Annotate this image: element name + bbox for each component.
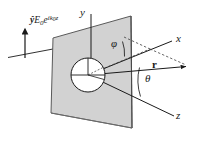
exponent-variable: z [56,14,59,22]
phi-angle-label: φ [111,38,117,49]
exponential-exponent: ik0z [48,14,59,22]
theta-angle-arc [138,68,141,97]
scattering-sphere [71,58,106,92]
z-axis-label: z [176,110,180,121]
spherical-coordinate-diagram: x y z r φ θ ŷE0eik0z [0,0,205,146]
x-axis-label: x [176,33,181,44]
theta-angle-label: θ [145,73,150,84]
y-axis-label: y [80,7,85,18]
incident-wave-label: ŷE0eik0z [30,15,58,27]
position-vector-label: r [152,59,157,70]
baseline-construction-line [8,49,53,58]
